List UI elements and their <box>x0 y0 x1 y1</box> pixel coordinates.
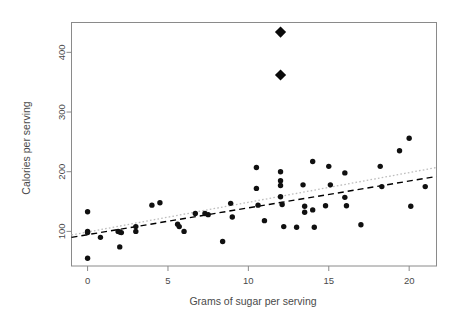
trend-lines <box>72 168 437 238</box>
data-point-outlier <box>275 26 286 37</box>
x-axis-ticks: 05101520 <box>85 266 415 286</box>
data-point <box>85 230 90 235</box>
data-point <box>302 210 307 215</box>
data-point <box>278 194 283 199</box>
data-point <box>85 209 90 214</box>
x-tick-label: 0 <box>85 275 90 286</box>
chart-canvas: 05101520 100200300400 Grams of sugar per… <box>0 0 461 329</box>
data-point <box>117 244 122 249</box>
data-point <box>149 202 154 207</box>
data-point-outlier <box>275 69 286 80</box>
data-point <box>220 239 225 244</box>
data-point <box>278 178 283 183</box>
data-point <box>157 200 162 205</box>
data-point <box>294 225 299 230</box>
data-point <box>98 235 103 240</box>
y-tick-label: 300 <box>56 104 67 120</box>
data-point <box>278 183 283 188</box>
data-point <box>326 164 331 169</box>
x-tick-label: 10 <box>243 275 254 286</box>
y-axis-label: Calories per serving <box>20 101 32 195</box>
data-points <box>85 26 428 260</box>
data-point <box>133 229 138 234</box>
data-point <box>342 195 347 200</box>
data-point <box>228 201 233 206</box>
data-point <box>423 184 428 189</box>
scatter-plot-figure: 05101520 100200300400 Grams of sugar per… <box>0 0 461 329</box>
data-point <box>397 148 402 153</box>
plot-frame <box>72 23 437 267</box>
y-axis-ticks: 100200300400 <box>56 44 72 239</box>
data-point <box>254 186 259 191</box>
data-point <box>254 165 259 170</box>
x-tick-label: 20 <box>404 275 415 286</box>
data-point <box>230 214 235 219</box>
data-point <box>328 182 333 187</box>
data-point <box>312 225 317 230</box>
y-tick-label: 400 <box>56 44 67 60</box>
trend-line-ols-fit <box>72 168 437 235</box>
data-point <box>177 224 182 229</box>
data-point <box>323 203 328 208</box>
data-point <box>119 230 124 235</box>
data-point <box>85 256 90 261</box>
data-point <box>379 184 384 189</box>
data-point <box>310 159 315 164</box>
data-point <box>279 202 284 207</box>
data-point <box>344 203 349 208</box>
y-tick-label: 200 <box>56 164 67 180</box>
data-point <box>181 229 186 234</box>
data-point <box>278 169 283 174</box>
data-point <box>133 224 138 229</box>
data-point <box>378 164 383 169</box>
data-point <box>255 202 260 207</box>
plot-box <box>72 23 437 267</box>
data-point <box>408 204 413 209</box>
data-point <box>300 182 305 187</box>
data-point <box>342 170 347 175</box>
data-point <box>205 212 210 217</box>
y-tick-label: 100 <box>56 223 67 239</box>
data-point <box>193 211 198 216</box>
data-point <box>302 204 307 209</box>
data-point <box>358 222 363 227</box>
data-point <box>281 224 286 229</box>
data-point <box>262 218 267 223</box>
x-axis-label: Grams of sugar per serving <box>189 295 316 307</box>
x-tick-label: 5 <box>165 275 170 286</box>
data-point <box>310 207 315 212</box>
data-point <box>406 136 411 141</box>
x-tick-label: 15 <box>323 275 334 286</box>
